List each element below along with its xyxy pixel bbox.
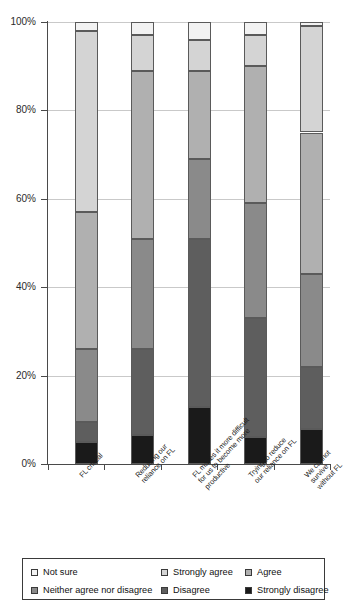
legend-swatch-icon bbox=[245, 587, 252, 594]
bar-segment bbox=[244, 22, 267, 35]
bar-segment bbox=[300, 133, 323, 274]
x-axis-tick bbox=[104, 464, 105, 470]
bar-5 bbox=[300, 22, 323, 464]
y-axis-tick-label: 40% bbox=[16, 282, 36, 292]
y-axis-tick bbox=[41, 376, 48, 377]
legend-swatch-icon bbox=[161, 569, 168, 576]
legend-item-label: Strongly disagree bbox=[257, 585, 329, 595]
legend-item[interactable]: Strongly disagree bbox=[245, 585, 329, 595]
bar-4 bbox=[244, 22, 267, 464]
plot-area bbox=[48, 22, 330, 464]
y-axis-tick bbox=[41, 22, 48, 23]
legend-item[interactable]: Not sure bbox=[31, 567, 78, 577]
legend-item-label: Strongly agree bbox=[173, 567, 233, 577]
legend-swatch-icon bbox=[161, 587, 168, 594]
bar-segment bbox=[75, 31, 98, 212]
y-axis-tick-label: 20% bbox=[16, 371, 36, 381]
bar-1 bbox=[75, 22, 98, 464]
legend: Not sureStrongly agreeAgreeNeither agree… bbox=[22, 558, 325, 600]
x-axis-tick bbox=[48, 464, 49, 470]
bar-segment bbox=[75, 349, 98, 422]
bar-3 bbox=[188, 22, 211, 464]
bar-segment bbox=[75, 212, 98, 349]
stacked-bar-chart: 0%20%40%60%80%100% FL criticalReducing o… bbox=[0, 0, 347, 611]
legend-item-label: Neither agree nor disagree bbox=[43, 585, 152, 595]
bar-segment bbox=[244, 203, 267, 318]
legend-item[interactable]: Strongly agree bbox=[161, 567, 233, 577]
bar-segment bbox=[131, 239, 154, 350]
y-axis-tick bbox=[41, 287, 48, 288]
legend-item-label: Not sure bbox=[43, 567, 78, 577]
bar-segment bbox=[131, 22, 154, 35]
bar-segment bbox=[188, 159, 211, 239]
bar-segment bbox=[300, 26, 323, 132]
legend-swatch-icon bbox=[31, 569, 38, 576]
bar-segment bbox=[188, 239, 211, 407]
legend-swatch-icon bbox=[31, 587, 38, 594]
legend-item-label: Disagree bbox=[173, 585, 210, 595]
legend-item[interactable]: Neither agree nor disagree bbox=[31, 585, 152, 595]
legend-item[interactable]: Agree bbox=[245, 567, 282, 577]
bar-segment bbox=[188, 22, 211, 40]
legend-item-label: Agree bbox=[257, 567, 282, 577]
y-axis-tick bbox=[41, 110, 48, 111]
bar-2 bbox=[131, 22, 154, 464]
bar-segment bbox=[300, 274, 323, 367]
bar-segment bbox=[244, 35, 267, 66]
y-axis-tick bbox=[41, 464, 48, 465]
bar-segment bbox=[300, 367, 323, 429]
y-axis-tick-label: 60% bbox=[16, 194, 36, 204]
y-axis-tick-label: 80% bbox=[16, 105, 36, 115]
bar-segment bbox=[75, 422, 98, 442]
bar-segment bbox=[188, 71, 211, 159]
y-axis-tick-label: 0% bbox=[22, 459, 36, 469]
y-axis-tick bbox=[41, 199, 48, 200]
bar-segment bbox=[244, 66, 267, 203]
bar-segment bbox=[188, 40, 211, 71]
bar-segment bbox=[131, 35, 154, 70]
y-axis-tick-label: 100% bbox=[10, 17, 36, 27]
legend-item[interactable]: Disagree bbox=[161, 585, 210, 595]
bar-segment bbox=[131, 71, 154, 239]
bar-segment bbox=[131, 349, 154, 435]
legend-swatch-icon bbox=[245, 569, 252, 576]
bar-segment bbox=[75, 22, 98, 31]
